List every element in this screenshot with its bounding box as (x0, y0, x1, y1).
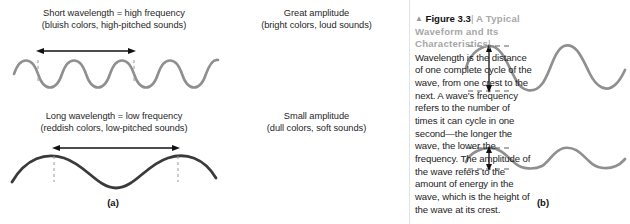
short-wavelength-wave (6, 38, 222, 96)
wavelength-arrow (36, 48, 136, 54)
figure-caption: ▲ Figure 3.3| A Typical Waveform and Its… (409, 0, 537, 224)
figure-caption-body: Wavelength is the distance of one comple… (415, 52, 533, 217)
great-amplitude-label: Great amplitude (bright colors, loud sou… (228, 7, 405, 31)
triangle-up-icon: ▲ (415, 14, 423, 23)
panel-a-letter: (a) (98, 197, 128, 208)
long-wavelength-label: Long wavelength = low frequency (reddish… (0, 110, 228, 134)
short-wavelength-label: Short wavelength = high frequency (bluis… (0, 7, 228, 31)
panel-b: Great amplitude (bright colors, loud sou… (228, 0, 405, 224)
wavelength-arrow (52, 145, 180, 151)
long-wavelength-wave (6, 138, 222, 194)
caption-separator: | (471, 13, 474, 24)
small-amplitude-label: Small amplitude (dull colors, soft sound… (228, 110, 405, 134)
figure-number: Figure 3.3 (426, 13, 471, 24)
figure-caption-heading: ▲ Figure 3.3| A Typical Waveform and Its… (415, 13, 533, 51)
panel-a: Short wavelength = high frequency (bluis… (0, 0, 228, 224)
caption-separator-2: | (488, 38, 491, 49)
